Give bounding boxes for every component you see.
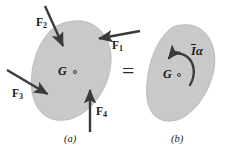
equals-sign: = [122,60,134,82]
center-of-mass-marker-b [177,73,181,77]
center-of-mass-marker-a [73,70,77,74]
center-of-mass-label-b: G [163,68,172,80]
caption-a: (a) [64,134,76,145]
force-label-f4: F4 [96,106,107,119]
center-of-mass-label-a: G [58,65,67,77]
force-label-f2: F2 [36,17,47,30]
angular-acceleration-symbol: α [196,44,203,58]
force-label-f3: F3 [12,88,23,101]
force-label-f1: F1 [112,40,123,53]
couple-label-i-alpha: Iα [191,44,203,58]
figure-graphics [0,0,229,155]
figure-container: F1 F2 F3 F4 G = G Iα (a) (b) [0,0,229,155]
force-arrow-f1 [99,31,140,39]
caption-b: (b) [171,134,183,145]
